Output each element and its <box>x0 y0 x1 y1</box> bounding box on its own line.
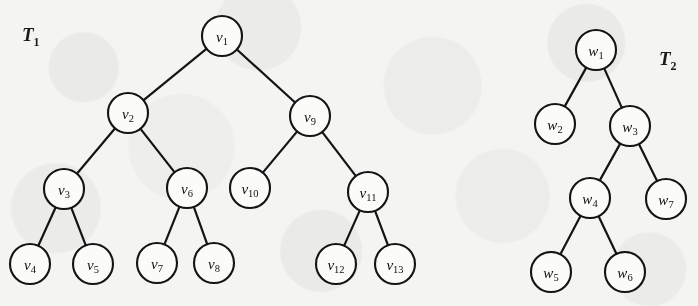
tree-edge-v6-v8 <box>193 206 207 245</box>
node-circle-w4[interactable] <box>570 178 610 218</box>
tree-node-w7[interactable]: w7 <box>646 179 686 219</box>
tree-edge-v3-v5 <box>71 207 86 247</box>
tree-label-t2: T2 <box>659 48 677 74</box>
tree-node-v8[interactable]: v8 <box>194 243 234 283</box>
tree-edge-w3-w7 <box>638 143 657 182</box>
tree-edge-w1-w2 <box>564 67 587 108</box>
node-circle-w1[interactable] <box>576 30 616 70</box>
node-circle-v11[interactable] <box>348 172 388 212</box>
tree-node-v6[interactable]: v6 <box>167 168 207 208</box>
tree-edge-w3-w4 <box>599 143 621 182</box>
tree-label-main: T <box>659 48 671 69</box>
tree-node-w5[interactable]: w5 <box>531 252 571 292</box>
tree-node-w1[interactable]: w1 <box>576 30 616 70</box>
node-circle-v12[interactable] <box>316 244 356 284</box>
tree-label-t1: T1 <box>22 24 40 50</box>
tree-node-v4[interactable]: v4 <box>10 244 50 284</box>
nodes-layer: v1v2v3v4v5v6v7v8v9v10v11v12v13w1w2w3w4w5… <box>10 16 686 292</box>
node-circle-v13[interactable] <box>375 244 415 284</box>
node-circle-v8[interactable] <box>194 243 234 283</box>
node-circle-v10[interactable] <box>230 168 270 208</box>
tree-edge-v11-v13 <box>375 210 389 246</box>
tree-edge-v9-v10 <box>262 131 298 174</box>
tree-node-w4[interactable]: w4 <box>570 178 610 218</box>
tree-node-v1[interactable]: v1 <box>202 16 242 56</box>
node-circle-v9[interactable] <box>290 96 330 136</box>
node-circle-w6[interactable] <box>605 252 645 292</box>
tree-edge-v2-v6 <box>140 128 176 173</box>
tree-diagram-canvas: v1v2v3v4v5v6v7v8v9v10v11v12v13w1w2w3w4w5… <box>0 0 698 306</box>
node-circle-w2[interactable] <box>535 104 575 144</box>
tree-node-w2[interactable]: w2 <box>535 104 575 144</box>
tree-node-v5[interactable]: v5 <box>73 244 113 284</box>
node-circle-v3[interactable] <box>44 169 84 209</box>
tree-edge-v1-v9 <box>236 49 296 103</box>
tree-node-v13[interactable]: v13 <box>375 244 415 284</box>
tree-label-subscript: 2 <box>671 59 677 73</box>
tree-edge-v6-v7 <box>164 206 180 246</box>
tree-label-main: T <box>22 24 34 45</box>
node-circle-v7[interactable] <box>137 243 177 283</box>
tree-node-v11[interactable]: v11 <box>348 172 388 212</box>
node-circle-v5[interactable] <box>73 244 113 284</box>
tree-edge-v3-v4 <box>38 206 56 246</box>
node-circle-v4[interactable] <box>10 244 50 284</box>
tree-node-v10[interactable]: v10 <box>230 168 270 208</box>
tree-edge-w1-w3 <box>604 67 622 108</box>
tree-node-w3[interactable]: w3 <box>610 106 650 146</box>
tree-edge-v2-v3 <box>76 128 116 175</box>
tree-figure: v1v2v3v4v5v6v7v8v9v10v11v12v13w1w2w3w4w5… <box>0 0 698 306</box>
tree-edge-v11-v12 <box>344 209 361 246</box>
tree-node-v7[interactable]: v7 <box>137 243 177 283</box>
tree-edge-w4-w6 <box>598 215 617 255</box>
tree-node-v9[interactable]: v9 <box>290 96 330 136</box>
node-circle-w7[interactable] <box>646 179 686 219</box>
node-circle-v1[interactable] <box>202 16 242 56</box>
tree-node-w6[interactable]: w6 <box>605 252 645 292</box>
tree-edge-v9-v11 <box>322 131 357 177</box>
tree-edge-w4-w5 <box>560 215 581 255</box>
tree-label-subscript: 1 <box>34 35 40 49</box>
node-circle-w5[interactable] <box>531 252 571 292</box>
node-circle-w3[interactable] <box>610 106 650 146</box>
tree-edge-v1-v2 <box>143 48 208 101</box>
edges-layer <box>38 48 658 255</box>
node-circle-v2[interactable] <box>108 93 148 133</box>
tree-node-v12[interactable]: v12 <box>316 244 356 284</box>
node-circle-v6[interactable] <box>167 168 207 208</box>
tree-node-v2[interactable]: v2 <box>108 93 148 133</box>
tree-node-v3[interactable]: v3 <box>44 169 84 209</box>
